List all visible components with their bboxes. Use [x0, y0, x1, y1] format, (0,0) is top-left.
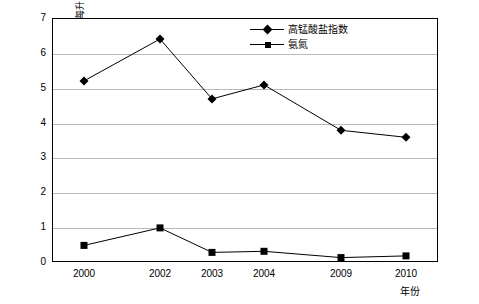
x-tick-label: 2003 [187, 268, 237, 279]
series-markers-permanganate [80, 35, 411, 142]
legend-item-permanganate: 高锰酸盐指数 [250, 22, 348, 37]
x-tick-label: 2000 [59, 268, 109, 279]
square-marker-icon [250, 39, 284, 51]
x-axis-title: 年份 [400, 283, 420, 298]
x-tick-label: 2009 [316, 268, 366, 279]
series-line-ammonia [84, 228, 406, 258]
chart-container: 高锰酸盐指数和氨氮 / 毫克每升 7 6 5 4 3 2 1 0 [0, 0, 479, 304]
legend-label: 高锰酸盐指数 [288, 22, 348, 37]
series-layer [0, 0, 479, 304]
x-tick-label: 2002 [135, 268, 185, 279]
x-axis-ticks: 2000 2002 2003 2004 2009 2010 [52, 268, 438, 282]
legend-label: 氨氮 [288, 37, 308, 52]
legend-item-ammonia: 氨氮 [250, 37, 348, 52]
diamond-marker-icon [250, 24, 284, 36]
x-tick-label: 2004 [239, 268, 289, 279]
chart-legend: 高锰酸盐指数 氨氮 [250, 22, 348, 52]
series-markers-ammonia [81, 224, 410, 261]
x-tick-label: 2010 [381, 268, 431, 279]
series-line-permanganate [84, 39, 406, 137]
